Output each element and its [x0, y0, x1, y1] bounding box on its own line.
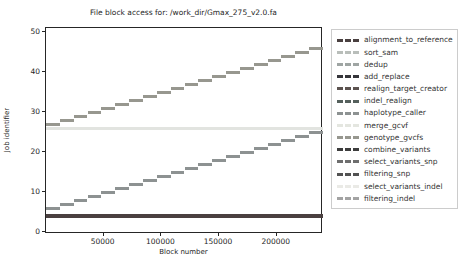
- series-segment-genotype_gvcfs: [129, 99, 143, 102]
- legend-swatch: [337, 173, 359, 176]
- series-segment-merge_gcvf: [46, 127, 323, 130]
- legend-swatch: [337, 197, 359, 200]
- chart-title: File block access for: /work_dir/Gmax_27…: [45, 8, 322, 17]
- legend-label: dedup: [364, 61, 388, 69]
- x-tick-mark: [276, 233, 277, 236]
- series-segment-haplotype_caller: [268, 143, 282, 146]
- legend-item: combine_variants: [337, 144, 453, 156]
- legend-item: genotype_gvcfs: [337, 132, 453, 144]
- legend-label: sort_sam: [364, 49, 398, 57]
- series-segment-genotype_gvcfs: [240, 67, 254, 70]
- legend: alignment_to_referencesort_samdedupadd_r…: [331, 29, 458, 209]
- legend-item: realign_target_creator: [337, 83, 453, 95]
- series-segment-haplotype_caller: [212, 159, 226, 162]
- y-tick-label: 40: [18, 67, 40, 76]
- legend-item: sort_sam: [337, 46, 453, 58]
- legend-item: indel_realign: [337, 95, 453, 107]
- legend-swatch: [337, 63, 359, 66]
- x-axis-label: Block number: [45, 248, 322, 256]
- series-segment-genotype_gvcfs: [143, 95, 157, 98]
- series-segment-haplotype_caller: [157, 175, 171, 178]
- x-tick-mark: [103, 233, 104, 236]
- y-tick-mark: [42, 151, 45, 152]
- legend-label: filtering_snp: [364, 170, 410, 178]
- x-tick-label: 150000: [188, 237, 248, 246]
- legend-label: alignment_to_reference: [364, 36, 453, 44]
- x-tick-mark: [218, 233, 219, 236]
- legend-swatch: [337, 148, 359, 151]
- legend-item: haplotype_caller: [337, 107, 453, 119]
- series-segment-genotype_gvcfs: [60, 119, 74, 122]
- legend-swatch: [337, 51, 359, 54]
- x-tick-label: 100000: [130, 237, 190, 246]
- series-segment-haplotype_caller: [115, 187, 129, 190]
- legend-item: select_variants_indel: [337, 180, 453, 192]
- y-tick-label: 0: [18, 227, 40, 236]
- legend-label: merge_gcvf: [364, 122, 408, 130]
- series-segment-haplotype_caller: [198, 163, 212, 166]
- legend-swatch: [337, 75, 359, 78]
- figure: File block access for: /work_dir/Gmax_27…: [0, 0, 471, 270]
- y-tick-mark: [42, 71, 45, 72]
- legend-item: filtering_indel: [337, 192, 453, 204]
- series-segment-haplotype_caller: [309, 131, 323, 134]
- series-segment-genotype_gvcfs: [198, 79, 212, 82]
- series-segment-haplotype_caller: [295, 135, 309, 138]
- series-segment-genotype_gvcfs: [115, 103, 129, 106]
- series-segment-genotype_gvcfs: [254, 63, 268, 66]
- legend-swatch: [337, 160, 359, 163]
- legend-swatch: [337, 39, 359, 42]
- series-segment-genotype_gvcfs: [101, 107, 115, 110]
- series-segment-genotype_gvcfs: [268, 59, 282, 62]
- series-segment-genotype_gvcfs: [212, 75, 226, 78]
- x-tick-label: 200000: [246, 237, 306, 246]
- legend-label: combine_variants: [364, 146, 430, 154]
- series-segment-haplotype_caller: [281, 139, 295, 142]
- y-tick-mark: [42, 31, 45, 32]
- y-tick-label: 10: [18, 187, 40, 196]
- series-segment-genotype_gvcfs: [74, 115, 88, 118]
- y-axis-label: Job identifier: [3, 80, 11, 180]
- series-segment-genotype_gvcfs: [46, 123, 60, 126]
- legend-label: indel_realign: [364, 97, 412, 105]
- series-segment-haplotype_caller: [60, 203, 74, 206]
- legend-swatch: [337, 136, 359, 139]
- legend-label: genotype_gvcfs: [364, 134, 423, 142]
- legend-swatch: [337, 124, 359, 127]
- x-tick-label: 50000: [73, 237, 133, 246]
- legend-label: select_variants_indel: [364, 183, 442, 191]
- legend-item: filtering_snp: [337, 168, 453, 180]
- x-tick-mark: [160, 233, 161, 236]
- y-tick-label: 30: [18, 107, 40, 116]
- legend-item: alignment_to_reference: [337, 34, 453, 46]
- y-tick-mark: [42, 231, 45, 232]
- plot-area: [45, 27, 322, 233]
- y-tick-mark: [42, 111, 45, 112]
- legend-label: add_replace: [364, 73, 410, 81]
- legend-swatch: [337, 87, 359, 90]
- series-segment-haplotype_caller: [171, 171, 185, 174]
- series-segment-haplotype_caller: [226, 155, 240, 158]
- series-segment-haplotype_caller: [185, 167, 199, 170]
- legend-swatch: [337, 112, 359, 115]
- series-segment-genotype_gvcfs: [88, 111, 102, 114]
- legend-label: filtering_indel: [364, 195, 415, 203]
- series-segment-haplotype_caller: [254, 147, 268, 150]
- series-segment-haplotype_caller: [240, 151, 254, 154]
- legend-item: dedup: [337, 58, 453, 70]
- series-segment-alignment_to_reference: [46, 214, 323, 218]
- series-segment-genotype_gvcfs: [295, 51, 309, 54]
- legend-item: add_replace: [337, 71, 453, 83]
- y-tick-label: 20: [18, 147, 40, 156]
- series-segment-genotype_gvcfs: [226, 71, 240, 74]
- series-segment-genotype_gvcfs: [185, 83, 199, 86]
- series-segment-haplotype_caller: [74, 199, 88, 202]
- legend-label: realign_target_creator: [364, 85, 447, 93]
- legend-item: select_variants_snp: [337, 156, 453, 168]
- legend-swatch: [337, 185, 359, 188]
- legend-swatch: [337, 100, 359, 103]
- series-segment-haplotype_caller: [88, 195, 102, 198]
- y-tick-mark: [42, 191, 45, 192]
- series-segment-genotype_gvcfs: [281, 55, 295, 58]
- series-segment-haplotype_caller: [143, 179, 157, 182]
